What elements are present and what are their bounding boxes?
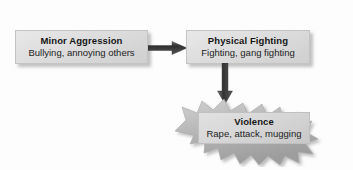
stage-title-minor-aggression: Minor Aggression [40,36,122,47]
stage-subtitle-violence: Rape, attack, mugging [206,129,301,140]
aggression-escalation-diagram: Minor Aggression Bullying, annoying othe… [0,0,353,170]
stage-subtitle-physical-fighting: Fighting, gang fighting [201,48,294,59]
stage-box-physical-fighting: Physical Fighting Fighting, gang fightin… [186,30,310,64]
stage-box-minor-aggression: Minor Aggression Bullying, annoying othe… [15,30,148,64]
stage-title-physical-fighting: Physical Fighting [208,36,288,47]
stage-box-violence: Violence Rape, attack, mugging [198,112,310,144]
stage-title-violence: Violence [234,117,274,128]
stage-subtitle-minor-aggression: Bullying, annoying others [28,48,134,59]
arrow-right-icon [148,40,188,56]
